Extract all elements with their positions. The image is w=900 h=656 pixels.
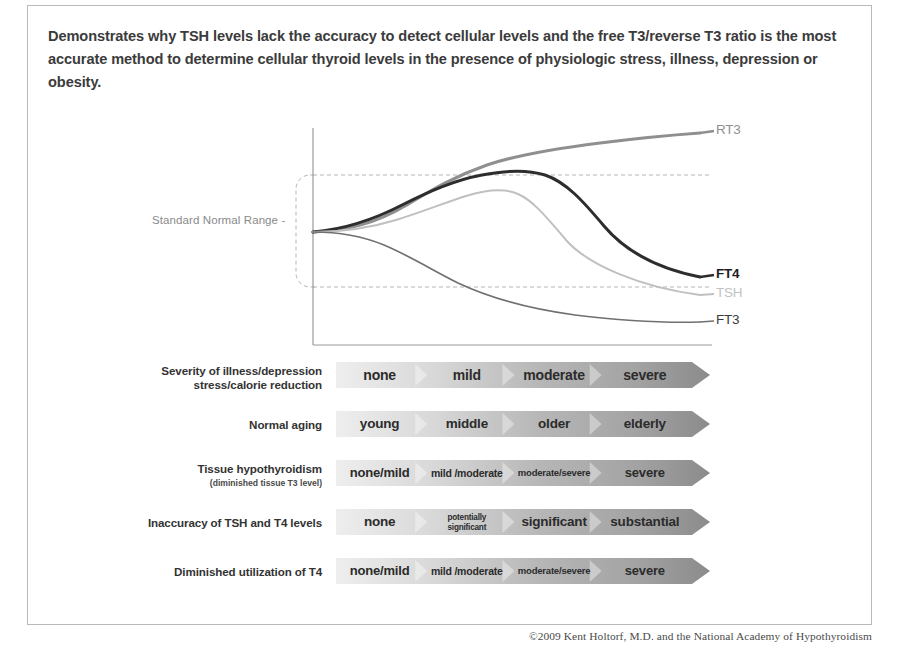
row-label-line2: stress/calorie reduction [72,378,322,392]
standard-normal-range-label: Standard Normal Range - [152,214,285,226]
severity-segment-label: moderate/severe [510,460,597,486]
curve-ft4 [313,171,700,277]
leader-ft4 [700,275,714,277]
severity-segment-label: severe [598,362,692,388]
curve-label-rt3: RT3 [716,122,741,137]
chart-svg [0,0,900,370]
severity-bar: nonepotentiallysignificantsignificantsub… [336,509,710,535]
leader-ft3 [700,321,714,322]
curve-ft3 [313,232,700,322]
severity-bar: none/mildmild /moderatemoderate/severese… [336,460,710,486]
severity-segment-label: mild [423,362,510,388]
severity-row: Inaccuracy of TSH and T4 levelsnonepoten… [0,509,900,558]
severity-segment-label: potentiallysignificant [423,509,510,531]
row-label-sub: (diminished tissue T3 level) [72,477,322,491]
curve-label-ft4: FT4 [716,266,739,281]
severity-segment-label: substantial [598,509,692,535]
row-label: Severity of illness/depressionstress/cal… [72,364,322,391]
severity-segment-label: none/mild [336,460,423,486]
severity-segment-label: elderly [598,411,692,437]
leader-tsh [700,294,714,295]
row-label: Inaccuracy of TSH and T4 levels [72,516,322,530]
severity-row: Tissue hypothyroidism(diminished tissue … [0,460,900,509]
severity-segment-label: mild /moderate [423,558,510,584]
severity-segment-label: middle [423,411,510,437]
row-label-line1: Severity of illness/depression [72,364,322,378]
severity-segment-label: young [336,411,423,437]
copyright-notice: ©2009 Kent Holtorf, M.D. and the Nationa… [0,630,872,642]
severity-segment-label: none/mild [336,558,423,584]
row-label: Normal aging [72,418,322,432]
severity-segment-label: moderate/severe [510,558,597,584]
severity-segment-label: none [336,362,423,388]
severity-row: Severity of illness/depressionstress/cal… [0,362,900,411]
severity-segment-label: moderate [510,362,597,388]
curve-label-tsh: TSH [716,285,742,300]
curve-label-ft3: FT3 [716,312,739,327]
row-label-line1: Tissue hypothyroidism [72,462,322,476]
row-label-line1: Inaccuracy of TSH and T4 levels [72,516,322,530]
severity-bar: youngmiddleolderelderly [336,411,710,437]
thyroid-levels-chart: Standard Normal Range - RT3 FT4 TSH FT3 [0,0,900,370]
severity-bar: none/mildmild /moderatemoderate/severese… [336,558,710,584]
row-label: Tissue hypothyroidism(diminished tissue … [72,462,322,490]
severity-row: Normal agingyoungmiddleolderelderly [0,411,900,460]
row-label: Diminished utilization of T4 [72,565,322,579]
severity-segment-label: none [336,509,423,535]
severity-segment-label: mild /moderate [423,460,510,486]
row-label-line1: Diminished utilization of T4 [72,565,322,579]
row-label-line1: Normal aging [72,418,322,432]
severity-segment-label: severe [598,460,692,486]
severity-segment-label: older [510,411,597,437]
severity-bar: nonemildmoderatesevere [336,362,710,388]
severity-rows: Severity of illness/depressionstress/cal… [0,362,900,607]
severity-segment-label: significant [510,509,597,535]
curve-tsh [313,190,700,295]
severity-row: Diminished utilization of T4none/mildmil… [0,558,900,607]
leader-rt3 [700,131,714,133]
severity-segment-label: severe [598,558,692,584]
